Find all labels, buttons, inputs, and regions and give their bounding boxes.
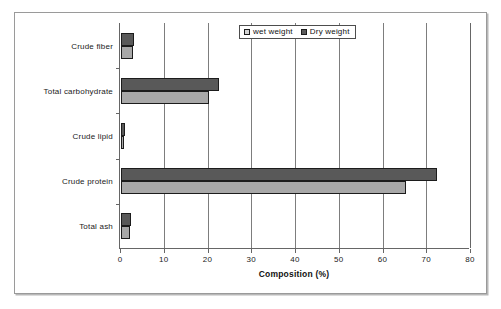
y-axis-category-labels: Crude fiberTotal carbohydrateCrude lipid… xyxy=(15,23,113,249)
x-tick-label-10: 10 xyxy=(159,255,169,264)
bar-group-total-carbohydrate xyxy=(121,68,469,113)
bar-wet-weight-total-ash[interactable] xyxy=(121,226,130,239)
x-tick-label-40: 40 xyxy=(290,255,300,264)
bar-dry-weight-total-carbohydrate[interactable] xyxy=(121,78,219,91)
bar-group-crude-protein xyxy=(121,159,469,204)
y-axis-label-crude-fiber: Crude fiber xyxy=(71,41,113,50)
y-tick-3 xyxy=(116,159,120,160)
legend-label-dry-weight: Dry weight xyxy=(310,28,350,36)
x-tick-label-80: 80 xyxy=(465,255,475,264)
y-axis-label-total-ash: Total ash xyxy=(79,222,113,231)
bar-wet-weight-crude-fiber[interactable] xyxy=(121,46,133,59)
bar-group-total-ash xyxy=(121,204,469,249)
y-tick-4 xyxy=(116,204,120,205)
x-tick-40 xyxy=(295,249,296,253)
legend-label-wet-weight: wet weight xyxy=(253,28,293,36)
x-tick-60 xyxy=(383,249,384,253)
y-axis-label-total-carbohydrate: Total carbohydrate xyxy=(44,86,113,95)
x-axis-title: Composition (%) xyxy=(119,269,469,279)
y-tick-1 xyxy=(116,68,120,69)
legend-item-wet-weight[interactable]: wet weight xyxy=(244,28,293,36)
x-tick-10 xyxy=(164,249,165,253)
x-tick-50 xyxy=(339,249,340,253)
x-tick-70 xyxy=(426,249,427,253)
x-tick-label-70: 70 xyxy=(422,255,432,264)
x-tick-20 xyxy=(208,249,209,253)
bar-wet-weight-crude-protein[interactable] xyxy=(121,181,406,194)
bar-group-crude-lipid xyxy=(121,113,469,158)
gridline-80 xyxy=(470,23,471,248)
bar-dry-weight-crude-lipid[interactable] xyxy=(121,123,125,136)
x-tick-label-0: 0 xyxy=(118,255,123,264)
x-tick-30 xyxy=(251,249,252,253)
chart-legend: wet weight Dry weight xyxy=(239,25,356,39)
bar-wet-weight-crude-lipid[interactable] xyxy=(121,136,124,149)
bar-dry-weight-crude-protein[interactable] xyxy=(121,168,437,181)
x-tick-label-30: 30 xyxy=(247,255,257,264)
legend-item-dry-weight[interactable]: Dry weight xyxy=(301,28,350,36)
x-tick-label-50: 50 xyxy=(334,255,344,264)
x-tick-80 xyxy=(470,249,471,253)
x-tick-label-60: 60 xyxy=(378,255,388,264)
chart-frame: wet weight Dry weight Crude fiberTotal c… xyxy=(14,12,487,294)
wet-weight-swatch-icon xyxy=(244,29,250,35)
bar-dry-weight-crude-fiber[interactable] xyxy=(121,33,134,46)
y-tick-2 xyxy=(116,113,120,114)
y-axis-label-crude-protein: Crude protein xyxy=(62,177,113,186)
bar-dry-weight-total-ash[interactable] xyxy=(121,213,131,226)
dry-weight-swatch-icon xyxy=(301,29,307,35)
y-axis-label-crude-lipid: Crude lipid xyxy=(73,132,113,141)
x-tick-label-20: 20 xyxy=(203,255,213,264)
x-tick-0 xyxy=(120,249,121,253)
bar-wet-weight-total-carbohydrate[interactable] xyxy=(121,91,209,104)
plot-area: 01020304050607080 xyxy=(119,23,469,249)
